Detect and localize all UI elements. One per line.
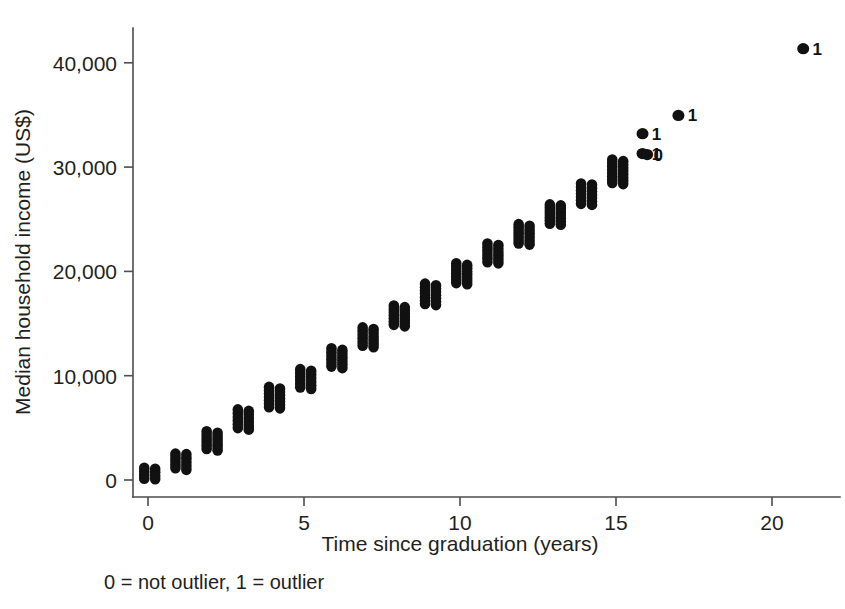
y-axis-ticks: 010,00020,00030,00040,000	[53, 52, 133, 492]
point-column	[399, 302, 410, 332]
not-outlier-glyph: 0	[621, 162, 626, 172]
point-column	[181, 449, 192, 475]
outlier-label: 1	[652, 125, 661, 144]
not-outlier-glyph: 0	[589, 194, 594, 204]
data-point	[181, 464, 192, 475]
data-points-layer: 000000000001111	[139, 40, 822, 485]
outlier-point	[637, 148, 649, 159]
data-point	[295, 382, 306, 393]
outlier-point	[797, 43, 809, 54]
point-column: 00	[587, 179, 598, 210]
not-outlier-glyph: 0	[527, 233, 532, 243]
x-tick-label: 15	[604, 511, 627, 534]
data-point	[306, 383, 317, 394]
point-column	[306, 365, 317, 394]
data-point	[201, 443, 212, 454]
outlier-label: 1	[652, 145, 661, 164]
data-point	[462, 278, 473, 289]
data-point	[243, 424, 254, 435]
y-tick-label: 0	[105, 469, 117, 492]
plot-canvas: 010,00020,00030,00040,000 05101520 00000…	[0, 0, 845, 609]
data-point	[326, 361, 337, 372]
data-point	[399, 321, 410, 332]
outlier-label: 1	[688, 106, 697, 125]
point-column: 00	[524, 220, 535, 249]
data-point	[482, 256, 493, 267]
data-point	[545, 218, 556, 229]
point-column	[337, 345, 348, 374]
point-column	[389, 300, 400, 330]
data-point	[368, 341, 379, 352]
figure-caption: 0 = not outlier, 1 = outlier	[104, 571, 324, 593]
data-point	[513, 238, 524, 249]
not-outlier-glyph: 0	[558, 213, 563, 223]
x-tick-label: 10	[448, 511, 471, 534]
data-point	[264, 401, 275, 412]
point-column	[576, 178, 587, 209]
outlier-point	[672, 110, 684, 121]
data-point	[389, 319, 400, 330]
point-column	[420, 278, 431, 309]
point-column	[513, 219, 524, 249]
y-tick-label: 10,000	[53, 365, 117, 388]
point-column	[431, 280, 442, 310]
data-point	[139, 473, 150, 484]
x-tick-label: 0	[142, 511, 154, 534]
scatter-plot-figure: 010,00020,00030,00040,000 05101520 00000…	[0, 0, 845, 609]
point-column	[139, 462, 150, 484]
x-axis-title: Time since graduation (years)	[322, 532, 599, 555]
data-point	[337, 362, 348, 373]
point-column	[201, 426, 212, 454]
point-column	[275, 383, 286, 413]
y-tick-label: 20,000	[53, 260, 117, 283]
point-column	[545, 199, 556, 229]
x-tick-label: 5	[298, 511, 310, 534]
point-column: 00	[493, 240, 504, 269]
point-column	[264, 382, 275, 413]
point-column	[326, 343, 337, 372]
point-column: 00	[618, 156, 629, 190]
data-point	[275, 402, 286, 413]
data-point	[451, 277, 462, 288]
point-column	[462, 260, 473, 290]
data-point	[607, 177, 618, 188]
point-column	[295, 364, 306, 393]
data-point	[170, 462, 181, 473]
data-point	[233, 422, 244, 433]
point-column	[212, 427, 223, 455]
data-point	[357, 340, 368, 351]
point-column	[170, 448, 181, 473]
y-tick-label: 40,000	[53, 52, 117, 75]
not-outlier-glyph: 0	[496, 252, 501, 262]
point-column	[243, 406, 254, 435]
data-point	[576, 198, 587, 209]
point-column	[482, 238, 493, 267]
x-axis-ticks: 05101520	[142, 497, 784, 534]
data-point	[212, 445, 223, 456]
outlier-point	[637, 128, 649, 139]
outlier-label: 1	[812, 40, 821, 59]
point-column	[607, 154, 618, 188]
point-column	[368, 324, 379, 353]
point-column	[451, 258, 462, 288]
y-axis-title: Median household income (US$)	[11, 109, 34, 415]
y-tick-label: 30,000	[53, 156, 117, 179]
data-point	[420, 298, 431, 309]
data-point	[431, 299, 442, 310]
data-point	[150, 473, 161, 484]
not-outlier-glyph: 0	[621, 173, 626, 183]
point-column	[233, 404, 244, 433]
point-column	[150, 463, 161, 484]
point-column	[357, 322, 368, 351]
x-tick-label: 20	[760, 511, 783, 534]
point-column: 00	[555, 200, 566, 230]
